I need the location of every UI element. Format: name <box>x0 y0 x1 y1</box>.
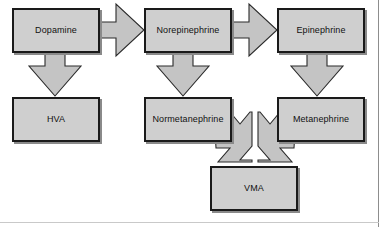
node-epinephrine-label: Epinephrine <box>296 26 345 35</box>
node-normetanephrine-label: Normetanephrine <box>152 115 223 124</box>
arrow-epinephrine-to-metanephrine <box>289 50 345 98</box>
arrow-dopamine-to-norepinephrine <box>98 2 146 58</box>
node-dopamine-label: Dopamine <box>35 26 77 35</box>
node-metanephrine[interactable]: Metanephrine <box>277 97 365 142</box>
node-normetanephrine[interactable]: Normetanephrine <box>144 97 232 142</box>
node-metanephrine-label: Metanephrine <box>293 115 349 124</box>
node-dopamine[interactable]: Dopamine <box>12 8 100 53</box>
arrow-norepinephrine-to-epinephrine <box>231 2 279 58</box>
frame-bottom-border <box>0 222 379 223</box>
frame-right-border <box>378 0 379 227</box>
node-norepinephrine[interactable]: Norepinephrine <box>144 8 232 53</box>
node-epinephrine[interactable]: Epinephrine <box>277 8 365 53</box>
arrow-norepinephrine-to-normetanephrine <box>155 50 211 98</box>
node-vma-label: VMA <box>244 184 264 193</box>
node-hva-label: HVA <box>47 115 65 124</box>
node-norepinephrine-label: Norepinephrine <box>157 26 220 35</box>
node-vma[interactable]: VMA <box>210 166 298 211</box>
node-hva[interactable]: HVA <box>12 97 100 142</box>
arrow-dopamine-to-hva <box>27 50 83 98</box>
diagram-canvas: Dopamine Norepinephrine Epinephrine HVA … <box>0 0 387 227</box>
